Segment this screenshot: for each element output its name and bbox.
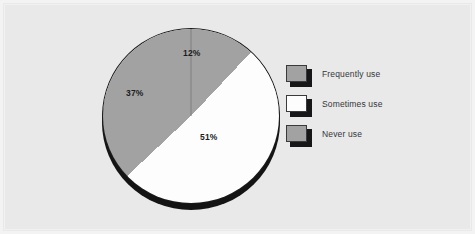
legend-swatch-face	[286, 65, 307, 82]
legend-item-never-use[interactable]: Never use	[286, 124, 451, 154]
pie-slice-label-frequently-use: 12%	[183, 48, 201, 58]
chart-legend: Frequently use Sometimes use Never use	[286, 64, 451, 154]
legend-label-sometimes-use: Sometimes use	[322, 99, 383, 109]
pie-chart: 12% 51% 37%	[101, 26, 283, 212]
legend-item-frequently-use[interactable]: Frequently use	[286, 64, 451, 94]
legend-label-frequently-use: Frequently use	[322, 69, 380, 79]
legend-swatch-never-use	[286, 125, 312, 147]
legend-swatch-sometimes-use	[286, 95, 312, 117]
pie-slice-divider	[191, 29, 192, 116]
pie-chart-figure: 12% 51% 37% Frequently use Sometimes use	[0, 0, 475, 234]
legend-label-never-use: Never use	[322, 129, 362, 139]
legend-swatch-face	[286, 95, 307, 112]
legend-swatch-frequently-use	[286, 65, 312, 87]
pie-slice-label-sometimes-use: 51%	[200, 132, 218, 142]
legend-swatch-face	[286, 125, 307, 142]
pie-slice-label-never-use: 37%	[126, 88, 144, 98]
legend-item-sometimes-use[interactable]: Sometimes use	[286, 94, 451, 124]
